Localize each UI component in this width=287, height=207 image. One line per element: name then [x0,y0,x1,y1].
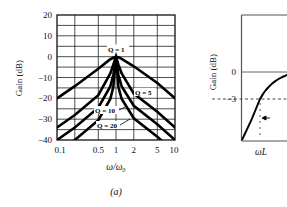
label-q20: Q = 20 [97,122,117,130]
xtick-a: 5 [155,145,160,155]
ytick-b: 0 [232,67,237,77]
xtick-a: 0.1 [54,145,65,155]
panel-a-caption: (a) [110,186,122,198]
label-q10: Q = 10 [95,107,115,115]
panel-a-xlabel: ω/ω₀ [106,162,125,172]
ytick-a: −30 [38,114,53,124]
xtick-a: 2 [132,145,137,155]
label-q5: Q = 5 [135,89,152,97]
arrow-icon [262,116,270,120]
ytick-a: −20 [38,93,53,103]
ytick-b: −3 [226,94,236,104]
panel-b-curve [242,74,287,140]
ytick-a: −40 [38,135,53,145]
ytick-a: 20 [43,10,53,20]
xtick-omega-l: ωL [255,147,267,157]
ytick-a: 10 [43,31,53,41]
panel-b: 0 −3 Gain (dB) ωL [208,15,287,157]
ytick-a: 0 [48,52,53,62]
panel-a: Q = 1 Q = 5 Q = 10 Q = 20 20 10 0 −10 −2… [14,10,179,198]
figure: Q = 1 Q = 5 Q = 10 Q = 20 20 10 0 −10 −2… [0,0,287,207]
label-q1: Q = 1 [108,46,125,54]
xtick-a: 1 [114,145,119,155]
xtick-a: 10 [170,145,180,155]
panel-a-ylabel: Gain (dB) [14,60,24,96]
panel-b-ylabel: Gain (dB) [208,54,218,90]
xtick-a: 0.5 [93,145,105,155]
ytick-a: −10 [38,73,53,83]
